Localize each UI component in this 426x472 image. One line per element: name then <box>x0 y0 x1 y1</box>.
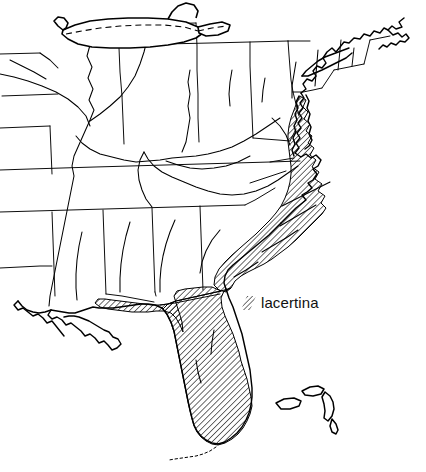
legend-label-lacertina: lacertina <box>261 294 319 311</box>
map-canvas <box>0 0 426 472</box>
distribution-map-figure: lacertina <box>0 0 426 472</box>
